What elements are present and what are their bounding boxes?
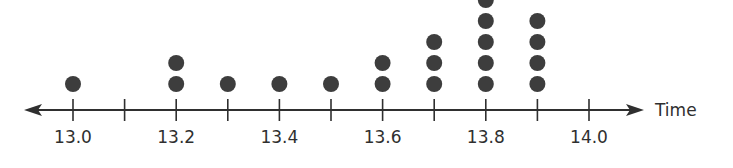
data-dot [168, 76, 184, 92]
tick-label: 14.0 [570, 127, 608, 147]
data-dot [426, 34, 442, 50]
data-dot [220, 76, 236, 92]
data-dot [529, 76, 545, 92]
data-dot [65, 76, 81, 92]
tick-label: 13.0 [54, 127, 92, 147]
tick-label: 13.2 [157, 127, 195, 147]
data-dot [478, 34, 494, 50]
data-dot [375, 55, 391, 71]
data-dot [426, 76, 442, 92]
data-dot [478, 76, 494, 92]
data-dot [529, 55, 545, 71]
tick-label: 13.4 [260, 127, 298, 147]
data-dot [426, 55, 442, 71]
tick-label: 13.6 [364, 127, 402, 147]
dot-plot: 13.013.213.413.613.814.0 Time [0, 0, 733, 168]
data-dot [529, 13, 545, 29]
data-dots [65, 0, 545, 92]
tick-label: 13.8 [467, 127, 505, 147]
axis-tick-labels: 13.013.213.413.613.814.0 [54, 127, 608, 147]
x-axis: 13.013.213.413.613.814.0 [24, 99, 644, 147]
data-dot [323, 76, 339, 92]
data-dot [478, 55, 494, 71]
data-dot [271, 76, 287, 92]
data-dot [478, 13, 494, 29]
data-dot [529, 34, 545, 50]
x-axis-title: Time [654, 100, 697, 120]
data-dot [168, 55, 184, 71]
data-dot [375, 76, 391, 92]
data-dot [478, 0, 494, 8]
